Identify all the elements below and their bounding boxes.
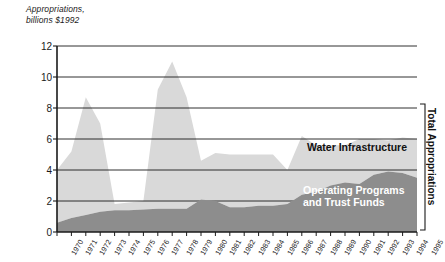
water-infrastructure-label: Water Infrastructure — [307, 141, 407, 153]
chart-container: Appropriations, billions $1992 024681012… — [0, 0, 445, 262]
total-appropriations-label: Total Appropriations — [426, 108, 437, 205]
total-appropriations-bracket — [420, 104, 425, 230]
chart-plot-area — [0, 0, 445, 262]
operating-programs-label: Operating Programs and Trust Funds — [303, 184, 405, 208]
